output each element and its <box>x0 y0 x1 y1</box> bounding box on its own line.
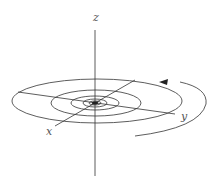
z-axis-label: z <box>92 11 99 24</box>
spiral-diagram: z x y <box>0 0 219 186</box>
direction-arrow-icon <box>159 79 168 85</box>
y-axis-label: y <box>180 110 188 123</box>
spiral-center <box>92 102 98 104</box>
x-axis-label: x <box>46 125 53 138</box>
